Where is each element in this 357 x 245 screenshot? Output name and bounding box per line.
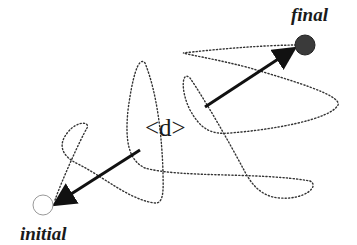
trajectory-path bbox=[55, 45, 338, 203]
displacement-label: <d> bbox=[145, 114, 186, 141]
final-point bbox=[295, 35, 315, 55]
final-label: final bbox=[291, 4, 329, 25]
displacement-arrow-final bbox=[205, 50, 292, 107]
initial-point bbox=[33, 195, 53, 215]
initial-label: initial bbox=[20, 223, 67, 244]
random-walk-diagram: final initial <d> bbox=[0, 0, 357, 245]
displacement-arrow-initial bbox=[57, 150, 140, 203]
